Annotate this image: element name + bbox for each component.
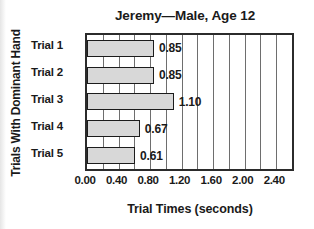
category-label: Trial 3 — [31, 93, 83, 105]
bar — [87, 40, 154, 57]
category-axis-labels: Trial 1Trial 2Trial 3Trial 4Trial 5 — [31, 33, 83, 171]
bar-series: 0.850.851.100.670.61 — [87, 35, 292, 169]
bar-slot — [87, 115, 292, 142]
x-tick-label: 1.60 — [201, 174, 222, 186]
bar-value-label: 0.85 — [159, 68, 182, 82]
x-tick-label: 2.00 — [232, 174, 253, 186]
x-axis-label: Trial Times (seconds) — [85, 202, 295, 216]
x-tick-label: 0.00 — [74, 174, 95, 186]
bar-value-label: 0.85 — [159, 41, 182, 55]
bar-slot — [87, 35, 292, 62]
x-tick-label: 0.80 — [137, 174, 158, 186]
plot-area: 0.850.851.100.670.61 — [85, 33, 294, 171]
scan-edge-artifact — [0, 0, 6, 229]
category-label: Trial 5 — [31, 147, 83, 159]
x-tick-label: 1.20 — [169, 174, 190, 186]
category-label: Trial 4 — [31, 120, 83, 132]
bar-slot — [87, 62, 292, 89]
x-tick-label: 2.40 — [264, 174, 285, 186]
bar — [87, 147, 135, 164]
chart-title: Jeremy—Male, Age 12 — [60, 8, 310, 23]
y-axis-label: Trials With Dominant Hand — [9, 23, 23, 183]
chart-figure: Jeremy—Male, Age 12 Trials With Dominant… — [0, 0, 314, 229]
bar-value-label: 1.10 — [179, 95, 202, 109]
bar-slot — [87, 142, 292, 169]
bar-value-label: 0.61 — [140, 149, 163, 163]
category-label: Trial 1 — [31, 39, 83, 51]
bar — [87, 67, 154, 84]
bar — [87, 120, 140, 137]
bar — [87, 93, 174, 110]
x-tick-label: 0.40 — [106, 174, 127, 186]
category-label: Trial 2 — [31, 66, 83, 78]
x-axis-tick-labels: 0.000.400.801.201.602.002.40 — [85, 174, 294, 192]
bar-value-label: 0.67 — [145, 122, 168, 136]
